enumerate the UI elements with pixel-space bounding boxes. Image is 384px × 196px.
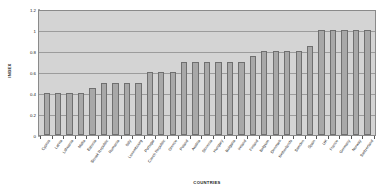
bar[interactable] xyxy=(192,62,198,136)
bar-slot xyxy=(144,11,155,135)
y-axis-tick-labels: 00.20.40.60.811.2 xyxy=(16,10,38,136)
x-axis-tick-labels: CyprusLatviaLithuaniaMaltaEstoniaSlovak … xyxy=(38,139,376,179)
bar[interactable] xyxy=(204,62,210,136)
bar[interactable] xyxy=(147,72,153,135)
bar[interactable] xyxy=(112,83,118,136)
bar-slot xyxy=(178,11,189,135)
bar[interactable] xyxy=(135,83,141,136)
bar-slot xyxy=(156,11,167,135)
bar[interactable] xyxy=(124,83,130,136)
bar-slot xyxy=(327,11,338,135)
bar-slot xyxy=(52,11,63,135)
y-tick-label: 0 xyxy=(34,134,36,139)
bar-slot xyxy=(110,11,121,135)
bar[interactable] xyxy=(101,83,107,136)
bar[interactable] xyxy=(78,93,84,135)
y-tick-label: 0.4 xyxy=(30,92,36,97)
bar[interactable] xyxy=(170,72,176,135)
y-tick-label: 1 xyxy=(34,29,36,34)
y-axis-title-label: INDEX xyxy=(7,63,12,77)
bar[interactable] xyxy=(181,62,187,136)
bar[interactable] xyxy=(330,30,336,135)
bar-slot xyxy=(293,11,304,135)
bar-slot xyxy=(121,11,132,135)
bar[interactable] xyxy=(66,93,72,135)
x-axis-title: COUNTRIES xyxy=(38,180,376,185)
bar-slot xyxy=(133,11,144,135)
bar[interactable] xyxy=(238,62,244,136)
bar[interactable] xyxy=(250,56,256,135)
bar[interactable] xyxy=(215,62,221,136)
bar-slot xyxy=(190,11,201,135)
y-tick-label: 1.2 xyxy=(30,8,36,13)
bar[interactable] xyxy=(341,30,347,135)
bar-slot xyxy=(247,11,258,135)
bar[interactable] xyxy=(353,30,359,135)
y-tick-label: 0.2 xyxy=(30,113,36,118)
bar[interactable] xyxy=(318,30,324,135)
bar[interactable] xyxy=(296,51,302,135)
bar-slot xyxy=(270,11,281,135)
bar-slot xyxy=(282,11,293,135)
bar-slot xyxy=(98,11,109,135)
y-tick-label: 0.8 xyxy=(30,50,36,55)
bar[interactable] xyxy=(89,88,95,135)
bar-slot xyxy=(224,11,235,135)
bar-slot xyxy=(339,11,350,135)
bar-slot xyxy=(259,11,270,135)
bar[interactable] xyxy=(44,93,50,135)
bar[interactable] xyxy=(284,51,290,135)
bar-slot xyxy=(41,11,52,135)
bar[interactable] xyxy=(261,51,267,135)
bar[interactable] xyxy=(227,62,233,136)
y-tick-label: 0.6 xyxy=(30,71,36,76)
bar-slot xyxy=(304,11,315,135)
bar-slot xyxy=(316,11,327,135)
bar-slot xyxy=(236,11,247,135)
bar-slot xyxy=(167,11,178,135)
bar[interactable] xyxy=(307,46,313,135)
bar[interactable] xyxy=(273,51,279,135)
y-axis-title: INDEX xyxy=(2,0,16,140)
bar-slot xyxy=(362,11,373,135)
bar-slot xyxy=(350,11,361,135)
bar-slot xyxy=(64,11,75,135)
bars-container xyxy=(39,11,375,135)
bar[interactable] xyxy=(158,72,164,135)
bar-slot xyxy=(213,11,224,135)
bar-slot xyxy=(87,11,98,135)
bar-slot xyxy=(201,11,212,135)
plot-area xyxy=(38,10,376,136)
bar-slot xyxy=(75,11,86,135)
bar-chart: INDEX 00.20.40.60.811.2 CyprusLatviaLith… xyxy=(0,0,384,196)
bar[interactable] xyxy=(55,93,61,135)
bar[interactable] xyxy=(364,30,370,135)
